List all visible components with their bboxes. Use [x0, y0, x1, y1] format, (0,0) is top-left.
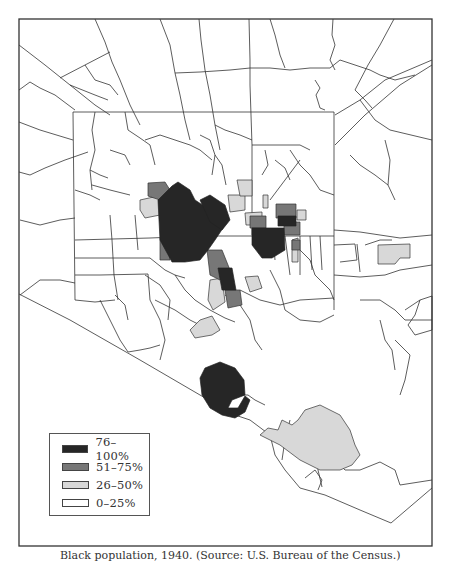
- swatch-26-50: [62, 481, 89, 489]
- legend-label: 76–100%: [95, 435, 149, 463]
- legend-item-0-25: 0–25%: [62, 497, 136, 509]
- legend-label: 0–25%: [96, 496, 136, 510]
- legend-label: 26–50%: [96, 478, 143, 492]
- swatch-0-25: [62, 499, 89, 507]
- swatch-76-100: [62, 445, 88, 453]
- swatch-51-75: [62, 463, 89, 471]
- figure-caption: Black population, 1940. (Source: U.S. Bu…: [60, 549, 400, 561]
- legend-label: 51–75%: [96, 460, 143, 474]
- legend-item-26-50: 26–50%: [62, 479, 143, 491]
- legend-item-51-75: 51–75%: [62, 461, 143, 473]
- legend-item-76-100: 76–100%: [62, 443, 149, 455]
- map-legend: 76–100% 51–75% 26–50% 0–25%: [49, 433, 150, 516]
